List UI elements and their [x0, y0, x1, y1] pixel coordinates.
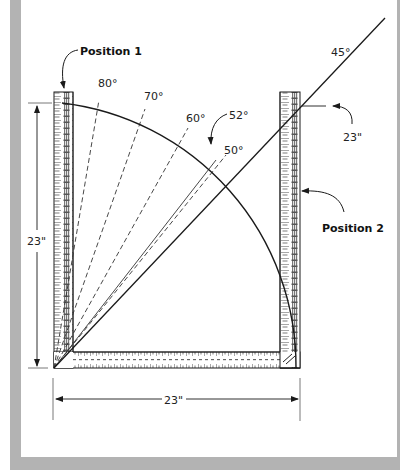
angle-label-60: 60° — [186, 112, 206, 125]
angle-line-52 — [54, 160, 216, 368]
right-dim-label: 23" — [343, 131, 362, 144]
angle-line-50 — [54, 155, 226, 368]
position2-label: Position 2 — [322, 222, 384, 235]
angle-label-70: 70° — [144, 90, 164, 103]
angle-label-50: 50° — [224, 144, 244, 157]
angle-label-80: 80° — [98, 77, 118, 90]
position1-label: Position 1 — [80, 45, 142, 58]
square-inner-edge — [73, 92, 280, 352]
right-dim-callout-arrow — [333, 106, 352, 124]
framing-square-bottom-blade — [54, 352, 300, 368]
framing-square-left-blade — [54, 92, 73, 368]
height-dimension: 23" — [24, 103, 52, 368]
angle-label-52: 52° — [229, 109, 249, 122]
angle-line-45 — [54, 18, 385, 368]
height-dim-label: 23" — [27, 235, 46, 248]
position1-callout-arrow — [63, 50, 78, 88]
angle-lines-dashed — [54, 100, 226, 368]
width-dimension: 23" — [53, 378, 300, 421]
angle52-callout-arrow — [211, 114, 227, 144]
framing-square-right-blade — [280, 92, 300, 368]
position2-callout-arrow — [302, 191, 344, 212]
width-dim-label: 23" — [164, 394, 183, 407]
framing-square-diagram: Position 1 Position 2 80° 70° 60° 52° 50… — [0, 0, 400, 470]
angle-label-45: 45° — [331, 46, 351, 59]
